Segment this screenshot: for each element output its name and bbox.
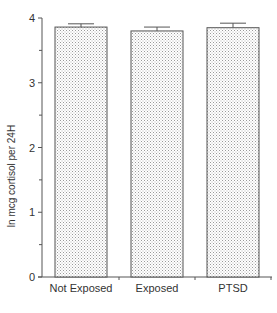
bar-exposed: Exposed bbox=[131, 27, 183, 294]
y-tick-label: 0 bbox=[29, 271, 35, 283]
x-category-label: Not Exposed bbox=[50, 282, 113, 294]
y-axis-title: ln mcg cortisol per 24H bbox=[6, 125, 17, 227]
y-axis: 01234 bbox=[29, 12, 42, 283]
y-tick-label: 1 bbox=[29, 206, 35, 218]
bars: Not ExposedExposedPTSD bbox=[50, 23, 259, 294]
y-tick-label: 4 bbox=[29, 12, 35, 24]
bar-ptsd: PTSD bbox=[207, 23, 259, 294]
y-tick-label: 2 bbox=[29, 142, 35, 154]
x-category-label: Exposed bbox=[136, 282, 179, 294]
y-tick-label: 3 bbox=[29, 77, 35, 89]
x-category-label: PTSD bbox=[218, 282, 247, 294]
bar-chart: 01234 Not ExposedExposedPTSD ln mcg cort… bbox=[0, 0, 277, 313]
bar-not-exposed: Not Exposed bbox=[50, 24, 113, 294]
